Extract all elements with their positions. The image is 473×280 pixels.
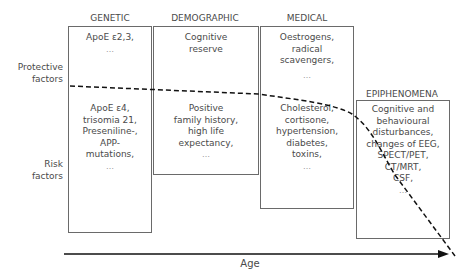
age-axis-label: Age: [230, 258, 270, 269]
threshold-dashed-curve: [70, 86, 455, 256]
diagram-lines: [0, 0, 473, 280]
age-axis-arrow: [64, 250, 449, 258]
